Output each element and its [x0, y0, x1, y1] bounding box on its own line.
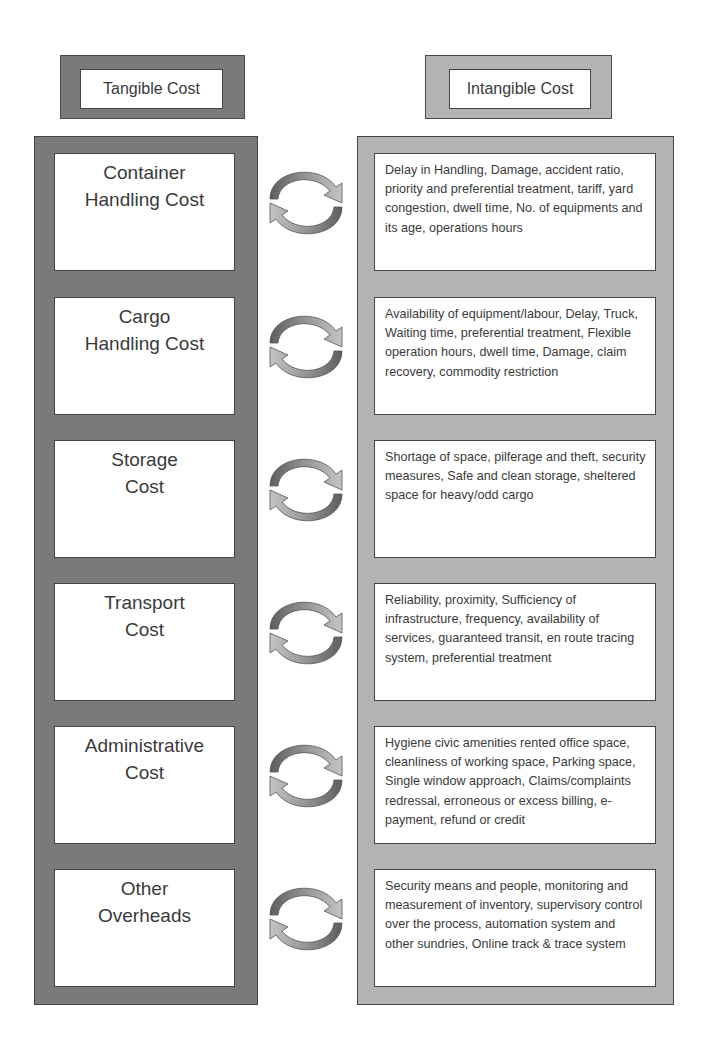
intangible-cost-box: Shortage of space, pilferage and theft, … — [374, 440, 656, 558]
tangible-cost-label: Container Handling Cost — [85, 162, 204, 210]
tangible-cost-box: Storage Cost — [54, 440, 235, 558]
intangible-cost-text: Delay in Handling, Damage, accident rati… — [385, 163, 643, 235]
tangible-header-label: Tangible Cost — [103, 80, 200, 98]
intangible-cost-text: Hygiene civic amenities rented office sp… — [385, 736, 636, 827]
intangible-cost-text: Reliability, proximity, Sufficiency of i… — [385, 593, 634, 665]
tangible-cost-label: Administrative Cost — [85, 735, 204, 783]
cycle-arrows-icon — [258, 448, 354, 532]
intangible-cost-box: Availability of equipment/labour, Delay,… — [374, 297, 656, 415]
tangible-header: Tangible Cost — [80, 69, 223, 109]
intangible-header: Intangible Cost — [449, 69, 591, 109]
intangible-cost-box: Delay in Handling, Damage, accident rati… — [374, 153, 656, 271]
intangible-cost-text: Security means and people, monitoring an… — [385, 879, 642, 951]
cycle-arrows-icon — [258, 877, 354, 961]
tangible-cost-box: Container Handling Cost — [54, 153, 235, 271]
intangible-cost-box: Hygiene civic amenities rented office sp… — [374, 726, 656, 844]
tangible-header-frame: Tangible Cost — [60, 55, 245, 119]
cycle-arrows-icon — [258, 305, 354, 389]
intangible-cost-text: Shortage of space, pilferage and theft, … — [385, 450, 645, 502]
tangible-cost-label: Other Overheads — [98, 878, 191, 926]
intangible-header-frame: Intangible Cost — [425, 55, 612, 119]
intangible-cost-box: Security means and people, monitoring an… — [374, 869, 656, 987]
tangible-cost-label: Cargo Handling Cost — [85, 306, 204, 354]
cycle-arrows-icon — [258, 734, 354, 818]
tangible-cost-label: Transport Cost — [104, 592, 185, 640]
cycle-arrows-icon — [258, 591, 354, 675]
tangible-cost-box: Cargo Handling Cost — [54, 297, 235, 415]
intangible-cost-text: Availability of equipment/labour, Delay,… — [385, 307, 638, 379]
tangible-cost-box: Transport Cost — [54, 583, 235, 701]
cycle-arrows-icon — [258, 161, 354, 245]
intangible-cost-box: Reliability, proximity, Sufficiency of i… — [374, 583, 656, 701]
tangible-cost-label: Storage Cost — [111, 449, 178, 497]
tangible-cost-box: Other Overheads — [54, 869, 235, 987]
intangible-header-label: Intangible Cost — [467, 80, 574, 98]
tangible-cost-box: Administrative Cost — [54, 726, 235, 844]
